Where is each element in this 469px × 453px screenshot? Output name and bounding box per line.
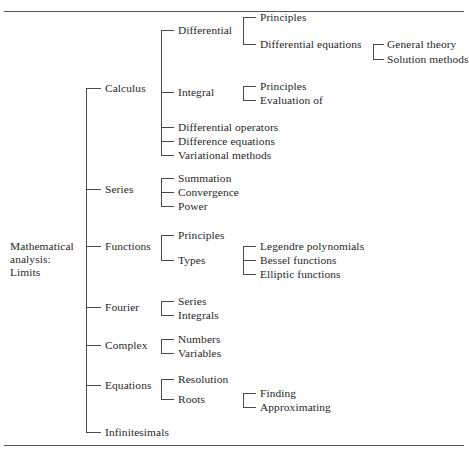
stub-equations [86, 385, 101, 386]
node-summation: Summation [178, 173, 231, 184]
stub-functions [86, 246, 101, 247]
stub-solution-methods [373, 59, 384, 60]
roots-children-spine [243, 393, 244, 407]
node-fourier-integrals: Integrals [178, 310, 219, 321]
stub-types [161, 260, 174, 261]
stub-resolution [161, 379, 174, 380]
differential-children-spine [243, 17, 244, 44]
node-difference-equations: Difference equations [178, 136, 275, 147]
node-resolution: Resolution [178, 374, 228, 385]
stub-differential [161, 30, 174, 31]
node-evaluation-of: Evaluation of [260, 95, 323, 106]
stub-differential-equations [243, 44, 256, 45]
node-differential-operators: Differential operators [178, 122, 278, 133]
stub-variational-methods [161, 155, 174, 156]
node-convergence: Convergence [178, 187, 239, 198]
complex-children-spine [161, 339, 162, 353]
node-differential-equations: Differential equations [260, 39, 362, 50]
node-legendre-polynomials: Legendre polynomials [260, 241, 364, 252]
stub-evaluation-of [243, 100, 256, 101]
stub-fn-principles [161, 235, 174, 236]
node-bessel-functions: Bessel functions [260, 255, 337, 266]
node-fourier-series: Series [178, 296, 206, 307]
node-complex-numbers: Numbers [178, 334, 220, 345]
top-rule [4, 11, 464, 12]
node-elliptic-functions: Elliptic functions [260, 269, 341, 280]
node-infinitesimals: Infinitesimals [105, 427, 169, 438]
node-differential: Differential [178, 25, 232, 36]
stub-integral [161, 92, 174, 93]
node-types: Types [178, 255, 206, 266]
node-equations: Equations [105, 380, 151, 391]
level1-spine [86, 88, 87, 432]
node-int-principles: Principles [260, 81, 307, 92]
stub-summation [161, 178, 174, 179]
stub-power [161, 206, 174, 207]
stub-difference-equations [161, 141, 174, 142]
node-variational-methods: Variational methods [178, 150, 271, 161]
node-general-theory: General theory [387, 39, 456, 50]
bottom-rule [4, 445, 464, 446]
stub-int-principles [243, 86, 256, 87]
node-diff-principles: Principles [260, 12, 307, 23]
stub-approximating [243, 407, 256, 408]
functions-children-spine [161, 235, 162, 260]
integral-children-spine [243, 86, 244, 100]
stub-differential-operators [161, 127, 174, 128]
stub-fourier-integrals [161, 315, 174, 316]
node-functions: Functions [105, 241, 151, 252]
stub-calculus [86, 88, 101, 89]
stub-convergence [161, 192, 174, 193]
stub-diff-principles [243, 17, 256, 18]
node-power: Power [178, 201, 208, 212]
node-complex: Complex [105, 340, 147, 351]
stub-complex [86, 345, 101, 346]
stub-roots [161, 399, 174, 400]
node-approximating: Approximating [260, 402, 331, 413]
differential-equations-children-spine [373, 44, 374, 59]
stub-fourier [86, 307, 101, 308]
node-calculus: Calculus [105, 83, 146, 94]
stub-series [86, 189, 101, 190]
stub-complex-variables [161, 353, 174, 354]
stub-infinitesimals [86, 432, 101, 433]
equations-children-spine [161, 379, 162, 399]
node-fn-principles: Principles [178, 230, 225, 241]
stub-legendre-polynomials [243, 246, 256, 247]
node-solution-methods: Solution methods [387, 54, 469, 65]
stub-complex-numbers [161, 339, 174, 340]
root-label-line-3: Limits [10, 266, 106, 279]
stub-fourier-series [161, 301, 174, 302]
stub-finding [243, 393, 256, 394]
node-fourier: Fourier [105, 302, 139, 313]
node-series: Series [105, 184, 133, 195]
stub-elliptic-functions [243, 274, 256, 275]
node-complex-variables: Variables [178, 348, 221, 359]
node-integral: Integral [178, 87, 214, 98]
node-finding: Finding [260, 388, 296, 399]
stub-bessel-functions [243, 260, 256, 261]
stub-general-theory [373, 44, 384, 45]
root-label-line-2: analysis: [10, 253, 106, 266]
node-roots: Roots [178, 394, 205, 405]
fourier-children-spine [161, 301, 162, 315]
